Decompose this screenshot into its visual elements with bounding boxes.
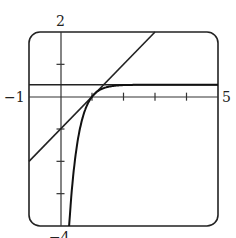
x-max-label: 5 xyxy=(222,90,231,104)
y-min-label: −4 xyxy=(49,230,70,238)
x-min-label: −1 xyxy=(4,90,25,104)
curve xyxy=(69,85,218,226)
y-max-label: 2 xyxy=(56,14,65,28)
chart-plot xyxy=(0,0,236,238)
